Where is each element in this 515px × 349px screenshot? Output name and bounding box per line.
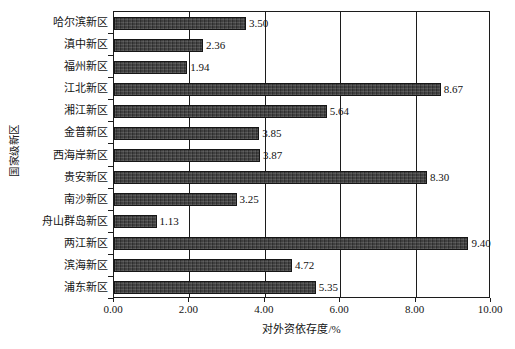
bar <box>114 149 260 162</box>
y-axis-title-text: 国家级新区 <box>6 124 21 177</box>
category-label: 两江新区 <box>22 237 108 249</box>
x-tick-mark <box>113 298 114 302</box>
x-tick-label: 6.00 <box>330 303 349 316</box>
bar-value-label: 4.72 <box>295 259 314 272</box>
x-tick-mark <box>188 298 189 302</box>
x-tick-label: 8.00 <box>405 303 424 316</box>
x-axis-title: 对外资依存度/% <box>113 320 490 336</box>
x-tick-label: 0.00 <box>103 303 122 316</box>
bar-value-label: 8.67 <box>444 83 463 96</box>
bar-chart: 国家级新区 哈尔滨新区滇中新区福州新区江北新区湘江新区金普新区西海岸新区贵安新区… <box>0 0 515 349</box>
x-tick-label: 2.00 <box>179 303 198 316</box>
y-tick-mark <box>108 77 113 78</box>
bar <box>114 215 157 228</box>
y-tick-mark <box>108 188 113 189</box>
x-tick-label: 4.00 <box>254 303 273 316</box>
y-tick-mark <box>108 166 113 167</box>
bar <box>114 237 468 250</box>
bar-value-label: 3.87 <box>263 149 282 162</box>
bar-value-label: 1.94 <box>190 61 209 74</box>
category-label: 贵安新区 <box>22 171 108 183</box>
category-label: 哈尔滨新区 <box>22 16 108 28</box>
y-tick-mark <box>108 99 113 100</box>
x-tick-label: 10.00 <box>478 303 503 316</box>
bar <box>114 171 427 184</box>
bar-value-label: 1.13 <box>160 215 179 228</box>
bar <box>114 193 237 206</box>
y-tick-mark <box>108 121 113 122</box>
bar-value-label: 3.25 <box>240 193 259 206</box>
category-label: 浦东新区 <box>22 281 108 293</box>
bar-value-label: 3.50 <box>249 17 268 30</box>
y-tick-mark <box>108 143 113 144</box>
bar <box>114 281 316 294</box>
bar-value-label: 8.30 <box>430 171 449 184</box>
bar-value-label: 3.85 <box>262 127 281 140</box>
bar <box>114 61 187 74</box>
category-label: 福州新区 <box>22 60 108 72</box>
gridline <box>416 12 417 297</box>
category-label: 滨海新区 <box>22 259 108 271</box>
gridline <box>340 12 341 297</box>
y-tick-mark <box>108 276 113 277</box>
y-tick-mark <box>108 210 113 211</box>
category-label: 西海岸新区 <box>22 149 108 161</box>
bar <box>114 127 259 140</box>
y-tick-mark <box>108 232 113 233</box>
bar-value-label: 5.35 <box>319 281 338 294</box>
bar-value-label: 5.64 <box>330 105 349 118</box>
category-label: 滇中新区 <box>22 38 108 50</box>
y-tick-mark <box>108 55 113 56</box>
x-tick-mark <box>415 298 416 302</box>
y-axis-category-labels: 哈尔滨新区滇中新区福州新区江北新区湘江新区金普新区西海岸新区贵安新区南沙新区舟山… <box>22 11 111 298</box>
plot-area: 3.502.361.948.675.643.853.878.303.251.13… <box>113 11 490 298</box>
category-label: 湘江新区 <box>22 104 108 116</box>
bar <box>114 83 441 96</box>
x-tick-mark <box>339 298 340 302</box>
bar <box>114 105 327 118</box>
bar <box>114 17 246 30</box>
bar-value-label: 2.36 <box>206 39 225 52</box>
y-tick-mark <box>108 33 113 34</box>
y-axis-title: 国家级新区 <box>2 0 24 300</box>
category-label: 江北新区 <box>22 82 108 94</box>
x-tick-mark <box>490 298 491 302</box>
bar <box>114 39 203 52</box>
category-label: 舟山群岛新区 <box>22 215 108 227</box>
bar <box>114 259 292 272</box>
y-tick-mark <box>108 254 113 255</box>
x-tick-mark <box>264 298 265 302</box>
category-label: 南沙新区 <box>22 193 108 205</box>
category-label: 金普新区 <box>22 126 108 138</box>
bar-value-label: 9.40 <box>471 237 490 250</box>
